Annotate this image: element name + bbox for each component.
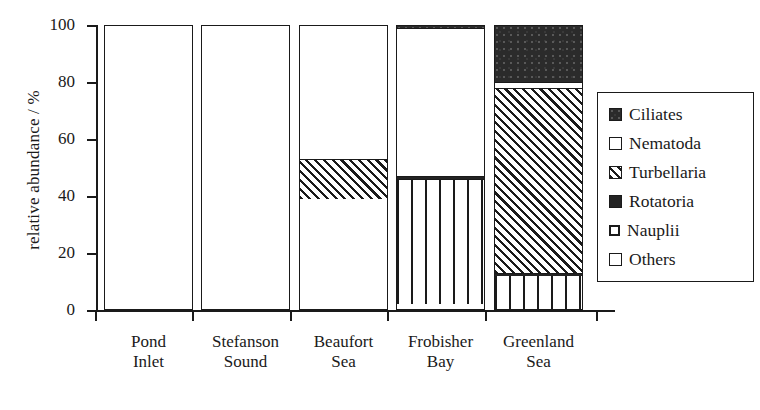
- x-label-line1: Stefanson: [195, 332, 296, 352]
- ciliates-swatch-icon: [609, 108, 622, 121]
- others-swatch-icon: [609, 253, 622, 266]
- x-tick-1: [192, 310, 194, 321]
- x-label-line1: Greenland: [488, 332, 589, 352]
- rotatoria-swatch-icon: [609, 195, 622, 208]
- legend-label: Nematoda: [629, 133, 701, 154]
- x-label-line2: Sea: [488, 352, 589, 372]
- legend-item-others[interactable]: Others: [609, 245, 753, 274]
- x-label-line1: Beaufort: [293, 332, 394, 352]
- x-label-1: PondInlet: [98, 332, 199, 372]
- bar-1[interactable]: [104, 25, 193, 310]
- y-tick-label-100: 100: [50, 15, 76, 35]
- bar-segment-others[interactable]: [201, 244, 290, 310]
- bar-5[interactable]: [494, 25, 583, 310]
- bar-segment-nauplii[interactable]: [396, 179, 485, 304]
- legend-label: Ciliates: [629, 104, 682, 125]
- x-tick-5: [596, 310, 598, 321]
- legend-item-turbellaria[interactable]: Turbellaria: [609, 158, 753, 187]
- bar-segment-others[interactable]: [104, 193, 193, 310]
- nematoda-swatch-icon: [609, 137, 622, 150]
- bar-segment-others[interactable]: [299, 199, 388, 310]
- x-axis-line: [96, 310, 615, 312]
- legend-item-nauplii[interactable]: Nauplii: [609, 216, 753, 245]
- y-tick-100: 100: [87, 25, 98, 27]
- y-tick-label-40: 40: [58, 186, 75, 206]
- y-tick-20: 20: [87, 253, 98, 255]
- x-tick-0: [95, 310, 97, 321]
- y-tick-60: 60: [87, 139, 98, 141]
- y-axis-title: relative abundance / %: [24, 30, 44, 310]
- bar-segment-ciliates[interactable]: [396, 25, 485, 28]
- bar-3[interactable]: [299, 25, 388, 310]
- x-tick-4: [485, 310, 487, 321]
- bar-segment-nematoda[interactable]: [104, 25, 193, 193]
- x-label-2: StefansonSound: [195, 332, 296, 372]
- x-tick-2: [290, 310, 292, 321]
- legend-box: CiliatesNematodaTurbellariaRotatoriaNaup…: [597, 92, 754, 282]
- bar-segment-nematoda[interactable]: [396, 28, 485, 176]
- bar-segment-rotatoria[interactable]: [494, 273, 583, 276]
- plot-area: 020406080100: [96, 25, 613, 310]
- legend-label: Nauplii: [627, 220, 680, 241]
- x-label-3: BeaufortSea: [293, 332, 394, 372]
- nauplii-swatch-icon: [609, 225, 620, 236]
- y-tick-40: 40: [87, 196, 98, 198]
- x-label-line1: Pond: [98, 332, 199, 352]
- legend-items: CiliatesNematodaTurbellariaRotatoriaNaup…: [609, 100, 753, 274]
- y-tick-label-20: 20: [58, 243, 75, 263]
- turbellaria-swatch-icon: [609, 166, 622, 179]
- y-tick-label-80: 80: [58, 72, 75, 92]
- x-label-line2: Sound: [195, 352, 296, 372]
- bar-segment-nauplii[interactable]: [494, 276, 583, 310]
- x-label-line2: Sea: [293, 352, 394, 372]
- legend-item-rotatoria[interactable]: Rotatoria: [609, 187, 753, 216]
- chart-figure: relative abundance / % 020406080100 Pond…: [0, 0, 760, 410]
- x-label-line2: Bay: [390, 352, 491, 372]
- bar-segment-turbellaria[interactable]: [494, 88, 583, 273]
- bar-segment-others[interactable]: [396, 304, 485, 310]
- x-label-line2: Inlet: [98, 352, 199, 372]
- bar-segment-rotatoria[interactable]: [396, 176, 485, 179]
- bar-segment-nematoda[interactable]: [494, 82, 583, 88]
- legend-label: Rotatoria: [629, 191, 694, 212]
- y-tick-80: 80: [87, 82, 98, 84]
- bar-segment-ciliates[interactable]: [494, 25, 583, 82]
- legend-label: Others: [629, 249, 676, 270]
- legend-item-nematoda[interactable]: Nematoda: [609, 129, 753, 158]
- y-tick-label-0: 0: [67, 300, 76, 320]
- bar-segment-nematoda[interactable]: [201, 25, 290, 244]
- legend-label: Turbellaria: [629, 162, 706, 183]
- bar-4[interactable]: [396, 25, 485, 310]
- y-tick-label-60: 60: [58, 129, 75, 149]
- bar-segment-turbellaria[interactable]: [299, 159, 388, 199]
- bar-2[interactable]: [201, 25, 290, 310]
- legend-item-ciliates[interactable]: Ciliates: [609, 100, 753, 129]
- y-axis-line: [96, 25, 98, 311]
- x-label-line1: Frobisher: [390, 332, 491, 352]
- x-label-4: FrobisherBay: [390, 332, 491, 372]
- x-tick-3: [387, 310, 389, 321]
- bar-segment-nematoda[interactable]: [299, 25, 388, 159]
- x-label-5: GreenlandSea: [488, 332, 589, 372]
